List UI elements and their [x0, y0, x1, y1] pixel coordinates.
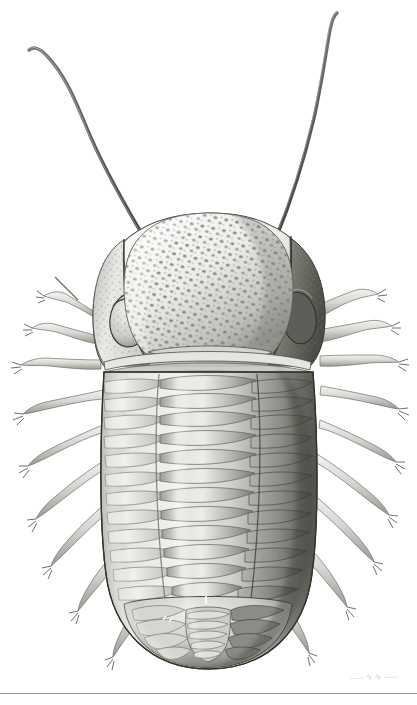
artist-signature: ⸺∿∿⸺	[349, 669, 399, 684]
plate-bottom-rule	[0, 693, 417, 694]
illustration-plate: ⸺∿∿⸺ trilobite, dorsal view	[0, 0, 417, 705]
trilobite-drawing	[0, 0, 417, 705]
